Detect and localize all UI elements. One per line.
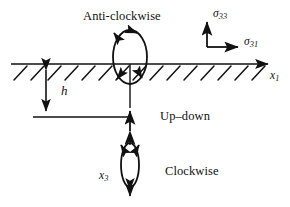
diagram-svg [0,0,290,207]
clockwise-label: Clockwise [165,165,219,178]
figure-canvas: Anti-clockwise Up–down Clockwise h x1 x3… [0,0,290,207]
clockwise-source-ellipse [121,143,139,190]
stress-sigma31-label: σ31 [244,36,258,50]
axis-x3-subscript: 3 [104,174,108,183]
axis-x3-label: x3 [99,170,108,184]
stress-sigma33-label: σ33 [213,8,227,22]
sigma33-subscript: 33 [219,12,227,21]
updown-label: Up–down [160,110,210,123]
stress-axes [207,22,238,47]
axis-x1-label: x1 [270,70,279,84]
anticlockwise-label: Anti-clockwise [83,10,161,23]
depth-label: h [61,84,68,97]
axis-x1-subscript: 1 [275,74,279,83]
sigma31-subscript: 31 [250,40,258,49]
